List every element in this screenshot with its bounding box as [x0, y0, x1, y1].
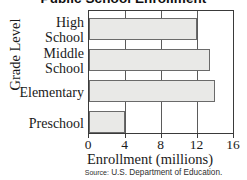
x-axis-title: Enrollment (millions)	[60, 151, 240, 168]
bar-preschool	[89, 111, 125, 133]
source-text: U.S. Department of Education.	[111, 168, 222, 177]
chart-title: Public School Enrollment	[0, 0, 247, 6]
bar-high-school	[89, 18, 197, 40]
y-tick-label-elementary: Elementary	[19, 86, 84, 101]
y-tick-label-high-school: High School	[45, 16, 84, 45]
gridline-12	[197, 11, 198, 133]
plot-area	[88, 10, 234, 134]
y-tick-label-preschool: Preschool	[29, 117, 84, 132]
y-tick-label-middle-school: Middle School	[44, 47, 84, 76]
y-axis-tick-labels: High School Middle School Elementary Pre…	[0, 10, 86, 134]
source-note: Source: U.S. Department of Education.	[60, 168, 247, 177]
bar-elementary	[89, 80, 215, 102]
bar-middle-school	[89, 49, 210, 71]
source-prefix: Source:	[85, 169, 109, 176]
